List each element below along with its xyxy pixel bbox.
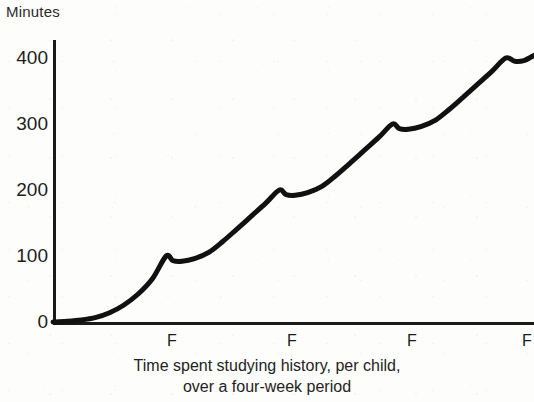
y-axis-tick-0: 0 bbox=[2, 311, 48, 333]
x-axis-tick-f-4: F bbox=[522, 332, 532, 350]
x-axis-tick-f-2: F bbox=[287, 332, 297, 350]
x-axis-tick-f-1: F bbox=[167, 332, 177, 350]
y-axis-tick-300: 300 bbox=[2, 113, 48, 135]
chart-figure: Minutes 400 300 200 100 0 F F F F Time s… bbox=[0, 0, 534, 402]
x-axis-tick-f-3: F bbox=[407, 332, 417, 350]
chart-caption-line-1: Time spent studying history, per child, bbox=[0, 357, 534, 375]
y-axis-tick-labels: 400 300 200 100 0 bbox=[0, 0, 48, 402]
chart-caption-line-2: over a four-week period bbox=[0, 378, 534, 396]
y-axis-tick-200: 200 bbox=[2, 179, 48, 201]
data-series-line bbox=[53, 55, 534, 322]
y-axis-tick-400: 400 bbox=[2, 47, 48, 69]
chart-plot-area bbox=[0, 0, 534, 402]
y-axis-tick-100: 100 bbox=[2, 245, 48, 267]
